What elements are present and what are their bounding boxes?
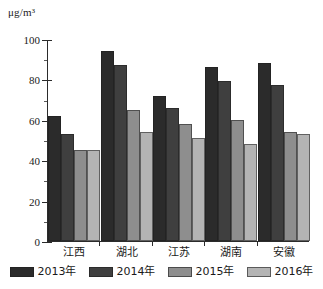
y-tick-minor [44,222,47,223]
bar[interactable] [218,81,231,241]
x-axis-line [47,241,309,242]
bar[interactable] [284,132,297,241]
y-tick-major [42,161,47,162]
y-tick-major [42,121,47,122]
x-tick-label: 江西 [63,246,85,259]
bar[interactable] [48,116,61,241]
y-tick-minor [44,141,47,142]
bar[interactable] [297,134,310,241]
legend-swatch-icon [168,267,192,277]
legend-swatch-icon [89,267,113,277]
x-tick-separator [204,242,205,246]
bar[interactable] [74,150,87,241]
bar[interactable] [127,110,140,241]
bar[interactable] [87,150,100,241]
x-tick-separator [99,242,100,246]
bar[interactable] [205,67,218,241]
bar[interactable] [114,65,127,241]
plot-area: 020406080100 江西湖北江苏湖南安徽 [47,40,309,242]
bar-group: 江苏 [153,39,205,241]
y-tick-label: 40 [29,156,40,167]
bar-group: 江西 [48,39,100,241]
bar[interactable] [153,96,166,241]
bar[interactable] [140,132,153,241]
bar-group: 安徽 [258,39,310,241]
y-tick-major [42,80,47,81]
y-tick-label: 20 [29,196,40,207]
legend-item[interactable]: 2015年 [168,266,235,278]
legend-item[interactable]: 2014年 [89,266,156,278]
x-tick-label: 湖南 [220,246,242,259]
y-tick-label: 80 [29,75,40,86]
legend-label: 2016年 [275,266,314,278]
bar[interactable] [61,134,74,241]
bar[interactable] [166,108,179,241]
bar[interactable] [192,138,205,241]
legend-item[interactable]: 2016年 [247,266,314,278]
y-tick-major [42,202,47,203]
bar-chart: μg/m³ 020406080100 江西湖北江苏湖南安徽 2013年2014年… [0,0,323,289]
y-tick-minor [44,60,47,61]
chart-legend: 2013年2014年2015年2016年 [0,266,323,278]
bar[interactable] [244,144,257,241]
x-tick-separator [257,242,258,246]
bar-group: 湖北 [101,39,153,241]
legend-label: 2015年 [196,266,235,278]
legend-swatch-icon [10,267,34,277]
bar[interactable] [231,120,244,241]
y-tick-major [42,40,47,41]
legend-swatch-icon [247,267,271,277]
y-axis-unit-label: μg/m³ [8,6,35,19]
x-tick-label: 安徽 [273,246,295,259]
y-tick-label: 0 [35,237,41,248]
y-tick-major [42,242,47,243]
legend-label: 2013年 [38,266,77,278]
y-tick-label: 60 [29,115,40,126]
legend-item[interactable]: 2013年 [10,266,77,278]
bar[interactable] [101,51,114,241]
y-tick-label: 100 [24,35,41,46]
x-tick-label: 江苏 [168,246,190,259]
bar-group: 湖南 [205,39,257,241]
x-tick-separator [152,242,153,246]
legend-label: 2014年 [117,266,156,278]
y-tick-minor [44,101,47,102]
y-tick-inner [48,242,52,243]
x-tick-label: 湖北 [116,246,138,259]
bar[interactable] [271,85,284,241]
bar[interactable] [258,63,271,241]
bar[interactable] [179,124,192,241]
y-tick-minor [44,181,47,182]
